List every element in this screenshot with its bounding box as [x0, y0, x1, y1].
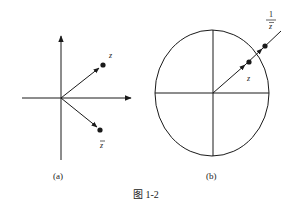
point-inv-zbar: [262, 43, 267, 48]
panel-b-label: (b): [206, 171, 217, 181]
figure-canvas: z z (a) z 1 z (b) 图 1-2: [0, 0, 297, 208]
point-z-b-label: z: [246, 74, 251, 83]
point-z: [100, 62, 105, 67]
panel-b: z 1 z (b): [155, 10, 281, 181]
point-zbar-label: z: [99, 141, 104, 150]
point-z-b: [246, 59, 251, 64]
vector-zbar: [61, 98, 97, 127]
vector-z: [61, 68, 99, 98]
inv-denominator: z: [268, 22, 273, 31]
point-z-label: z: [108, 51, 113, 60]
vector-z-b: [213, 65, 245, 93]
inv-numerator: 1: [269, 10, 273, 19]
panel-a: z z (a): [22, 36, 131, 181]
point-zbar: [97, 127, 102, 132]
panel-a-label: (a): [53, 171, 63, 181]
figure-caption: 图 1-2: [133, 189, 159, 200]
